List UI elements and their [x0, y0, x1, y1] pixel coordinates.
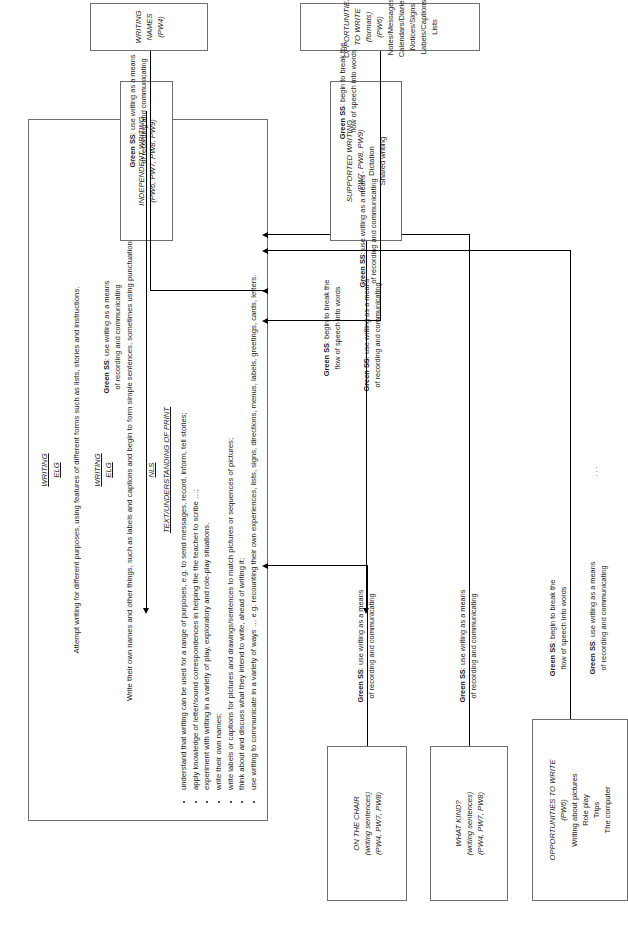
arrowhead-writing-names [262, 289, 268, 295]
connector-opportunities-formats-riser [268, 320, 380, 321]
note-line2: of recording and communicating [113, 284, 122, 389]
box-line: (PW4, PW7, PW8) [475, 792, 486, 855]
note-line2: flow of speech into words [559, 587, 568, 670]
connector-opportunities-formats-mid [380, 171, 381, 321]
note-rest: : begin to break the [322, 280, 331, 343]
list-item: apply knowledge of letter/sound correspo… [190, 134, 202, 792]
connector-on-the-chair-v [268, 565, 368, 566]
arrowhead-on-the-chair [262, 564, 268, 570]
note-line2: of recording and communicating [599, 565, 608, 670]
arrowhead-what-kind [262, 233, 268, 239]
connector-writing-names-h [150, 51, 151, 173]
note-green-ss-8: Green SS: use writing as a meansof recor… [128, 51, 149, 171]
connector-writing-names-run [150, 173, 151, 291]
connector-independent-writing-tail [146, 430, 147, 608]
box-line: (PW6) [558, 799, 569, 821]
note-bold: Green SS [358, 254, 367, 287]
box-line: Calendars/Diaries [396, 0, 407, 57]
connector-opportunities-pw6-v [268, 250, 571, 251]
note-line2: of recording and communicating [369, 178, 378, 283]
note-bold: Green SS [102, 360, 111, 393]
central-heading-writing-1: WRITING [39, 134, 51, 806]
note-rest: : begin to break the [548, 580, 557, 643]
note-rest: : use writing as a means [102, 281, 111, 361]
note-bold: Green SS [338, 106, 347, 139]
box-line: Notices/Signs [407, 4, 418, 50]
box-line: The computer [602, 787, 613, 834]
note-bold: Green SS [548, 643, 557, 676]
connector-independent-writing-path [146, 241, 147, 430]
list-item: experiment with writing in a variety of … [201, 134, 213, 792]
central-heading-elg-1: ELG [51, 134, 63, 806]
note-green-ss-9: Green SS: use writing as a meansof recor… [358, 161, 379, 301]
list-item: write labels or captions for pictures an… [225, 134, 237, 792]
arrowhead-opportunities-pw6 [262, 249, 268, 255]
box-line: (PW4) [155, 16, 166, 38]
connector-what-kind [469, 234, 470, 746]
list-item: write their own names; [213, 134, 225, 792]
box-line: (writing sentences) [362, 792, 373, 856]
connector-on-the-chair [367, 566, 368, 746]
box-title: WHAT KIND? [453, 800, 464, 846]
connector-opportunities-pw6 [570, 251, 571, 719]
note-rest: : use writing as a means [458, 590, 467, 670]
note-bold: Green SS [128, 134, 137, 167]
box-line: (formats) (PW6) [363, 9, 385, 45]
note-line2: of recording and communicating [469, 593, 478, 698]
box-what-kind: WHAT KIND? (writing sentences) (PW4, PW7… [430, 746, 508, 901]
arrowhead-opportunities-formats [262, 319, 268, 325]
central-heading-elg-2: ELG [103, 134, 115, 806]
list-item: understand that writing can be used for … [178, 134, 190, 792]
note-rest: : use writing as a means [128, 55, 137, 135]
note-bold: Green SS [458, 669, 467, 702]
note-bold: Green SS [322, 343, 331, 376]
note-line2: flow of speech into words [349, 50, 358, 133]
box-line: (PW4, PW7, PW8) [373, 792, 384, 855]
page-marker: ... [590, 0, 599, 941]
box-opportunities-to-write-formats: OPPORTUNITIES TO WRITE (formats) (PW6) N… [300, 3, 480, 51]
central-bullet-list: understand that writing can be used for … [178, 134, 259, 806]
box-line: Notes/Messages [385, 0, 396, 55]
note-green-ss-4: Green SS: begin to break the flow of spe… [548, 553, 569, 703]
box-on-the-chair: ON THE CHAIR (writing sentences) (PW4, P… [327, 746, 407, 901]
note-rest: : use writing as a means [358, 175, 367, 255]
arrowhead-independent-writing [143, 608, 149, 614]
note-green-ss-7: Green SS: begin to break the flow of spe… [322, 253, 343, 403]
box-writing-names: WRITING NAMES (PW4) [90, 3, 208, 51]
note-line2: of recording and communicating [139, 58, 148, 163]
box-title: OPPORTUNITIES TO WRITE [547, 760, 558, 861]
arrowhead-supported-writing [363, 608, 369, 614]
note-rest: : use writing as a means [356, 590, 365, 670]
connector-opportunities-formats [380, 51, 381, 171]
box-line: Labels/Captions [418, 0, 429, 54]
box-title: ON THE CHAIR [351, 796, 362, 850]
box-line: Lists [429, 19, 440, 35]
connector-writing-names-riser2 [150, 290, 268, 291]
note-green-ss-10: Green SS: begin to break theflow of spee… [338, 31, 359, 151]
box-line: Writing about pictures [569, 773, 580, 846]
list-item: use writing to communicate in a variety … [248, 134, 260, 792]
list-item: think about and discuss what they intend… [236, 134, 248, 792]
note-bold: Green SS [356, 669, 365, 702]
note-green-ss-5: Green SS: use writing as a means of reco… [102, 251, 123, 423]
box-title: WRITING NAMES [133, 9, 155, 45]
box-opportunities-to-write-pw6: OPPORTUNITIES TO WRITE (PW6) Writing abo… [532, 719, 628, 901]
central-paragraph-1: Attempt writing for different purposes, … [71, 134, 83, 806]
box-line: (writing sentences) [464, 792, 475, 856]
central-heading-writing-2: WRITING [92, 134, 104, 806]
note-line2: flow of speech into words [333, 287, 342, 370]
note-rest: : begin to break the [338, 43, 347, 106]
